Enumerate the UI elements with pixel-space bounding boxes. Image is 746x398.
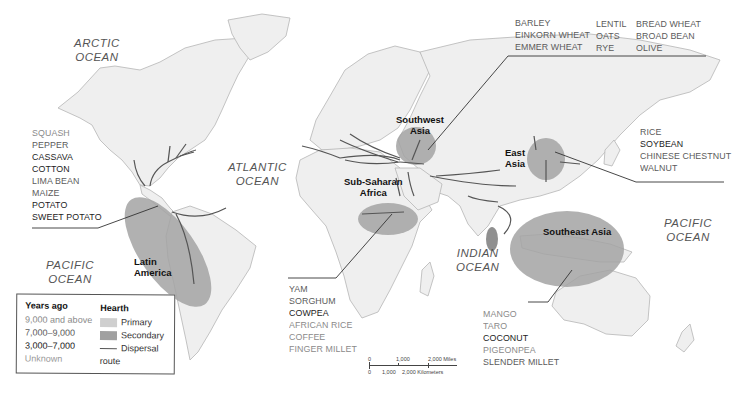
crop-name: WALNUT	[640, 162, 731, 174]
hearth-label-southwest-asia: Southwest Asia	[396, 114, 444, 136]
dispersal-route-line-icon	[100, 348, 117, 349]
ocean-label-line: OCEAN	[456, 260, 499, 274]
crop-name: CHINESE CHESTNUT	[640, 150, 731, 162]
crop-name: COWPEA	[289, 307, 357, 319]
crop-name: EMMER WHEAT	[515, 41, 590, 53]
crop-name: BROAD BEAN	[636, 30, 701, 42]
crop-name: LIMA BEAN	[32, 175, 102, 187]
hearth-label-latin-america: Latin America	[134, 256, 172, 278]
crop-name: TARO	[483, 320, 559, 332]
crop-name: OLIVE	[636, 42, 701, 54]
crop-name: SOYBEAN	[640, 138, 731, 150]
crop-name: SLENDER MILLET	[483, 356, 559, 368]
crop-name: COTTON	[32, 163, 102, 175]
crop-name: MAIZE	[32, 187, 102, 199]
ocean-label-line: OCEAN	[228, 174, 287, 188]
legend-hearth-title: Hearth	[100, 303, 174, 314]
crop-name: RICE	[640, 126, 731, 138]
scale-tick	[369, 362, 370, 369]
crop-list-east-asia: RICE SOYBEAN CHINESE CHESTNUT WALNUT	[640, 126, 731, 174]
hearth-label-line: Asia	[396, 125, 444, 136]
crop-name: OATS	[596, 30, 626, 42]
crop-list-southwest-asia-col3: BREAD WHEAT BROAD BEAN OLIVE	[636, 18, 701, 54]
crop-list-southeast-asia: MANGO TARO COCONUT PIGEONPEA SLENDER MIL…	[483, 308, 559, 368]
ocean-label-atlantic: ATLANTIC OCEAN	[228, 160, 287, 188]
hearth-label-line: America	[134, 267, 172, 278]
crop-name: YAM	[289, 283, 357, 295]
hearth-label-sub-saharan-africa: Sub-Saharan Africa	[344, 176, 403, 198]
crop-name: SORGHUM	[289, 295, 357, 307]
crop-name: SWEET POTATO	[32, 211, 102, 223]
crop-name: FINGER MILLET	[289, 343, 357, 355]
legend-years-title: Years ago	[25, 301, 92, 311]
new-zealand	[676, 324, 694, 352]
legend-years-column: Years ago 9,000 and above 7,000–9,000 3,…	[25, 301, 93, 366]
crop-name: EINKORN WHEAT	[515, 29, 590, 41]
hearth-label-east-asia: East Asia	[505, 147, 525, 169]
ocean-label-indian: INDIAN OCEAN	[456, 246, 499, 274]
crop-name: AFRICAN RICE	[289, 319, 357, 331]
primary-swatch-icon	[100, 318, 117, 327]
hearth-label-line: Southwest	[396, 114, 444, 125]
crop-name: COFFEE	[289, 331, 357, 343]
ocean-label-line: INDIAN	[456, 246, 499, 260]
ocean-label-line: ARCTIC	[74, 36, 120, 50]
crop-list-southwest-asia-col2: LENTIL OATS RYE	[596, 18, 626, 54]
hearth-label-line: Latin	[134, 256, 172, 267]
crop-name: BARLEY	[515, 17, 590, 29]
crop-list-sub-saharan-africa: YAM SORGHUM COWPEA AFRICAN RICE COFFEE F…	[289, 283, 357, 355]
crop-name: MANGO	[483, 308, 559, 320]
legend-years-item: Unknown	[25, 353, 92, 366]
legend-hearth-secondary: Secondary	[100, 329, 174, 343]
madagascar	[420, 262, 434, 296]
scale-km-label: 2,000 Kilometers	[402, 369, 443, 375]
crop-name: COCONUT	[483, 332, 559, 344]
legend-years-item: 9,000 and above	[25, 314, 92, 327]
hearth-label-line: Africa	[344, 187, 403, 198]
ocean-label-line: OCEAN	[46, 272, 94, 286]
scale-bar: 0 1,000 2,000 Miles 0 1,000 2,000 Kilome…	[368, 356, 478, 380]
crop-name: CASSAVA	[32, 151, 102, 163]
ocean-label-line: PACIFIC	[46, 258, 94, 272]
legend-years-item: 7,000–9,000	[25, 327, 92, 340]
hearth-label-line: Southeast Asia	[543, 226, 611, 237]
crop-name: SQUASH	[32, 127, 102, 139]
map-legend: Years ago 9,000 and above 7,000–9,000 3,…	[16, 293, 176, 374]
crop-list-southwest-asia-col1: BARLEY EINKORN WHEAT EMMER WHEAT	[515, 17, 590, 53]
legend-hearth-route: Dispersal route	[100, 342, 174, 356]
ocean-label-line: PACIFIC	[664, 216, 712, 230]
scale-tick	[428, 363, 429, 368]
crop-name: PEPPER	[32, 139, 102, 151]
ocean-label-pacific-east: PACIFIC OCEAN	[664, 216, 712, 244]
crop-list-latin-america: SQUASH PEPPER CASSAVA COTTON LIMA BEAN M…	[32, 127, 102, 223]
hearth-label-line: East	[505, 147, 525, 158]
legend-hearth-label: Secondary	[121, 330, 164, 340]
legend-hearth-label: Dispersal route	[100, 343, 159, 366]
hearth-label-line: Asia	[505, 158, 525, 169]
hearth-label-line: Sub-Saharan	[344, 176, 403, 187]
legend-years-item: 3,000–7,000	[25, 340, 92, 353]
ocean-label-pacific-west: PACIFIC OCEAN	[46, 258, 94, 286]
legend-hearth-label: Primary	[121, 317, 152, 327]
ocean-label-line: OCEAN	[664, 230, 712, 244]
ocean-label-line: OCEAN	[74, 50, 120, 64]
scale-km-label: 0	[368, 369, 371, 375]
scale-line	[369, 365, 457, 366]
crop-name: BREAD WHEAT	[636, 18, 701, 30]
hearth-southeast-asia	[510, 211, 624, 287]
legend-hearth-column: Hearth Primary Secondary Dispersal route	[100, 303, 174, 356]
scale-miles-label: 2,000 Miles	[428, 356, 456, 362]
crop-name: PIGEONPEA	[483, 344, 559, 356]
secondary-swatch-icon	[100, 331, 117, 340]
scale-miles-label: 1,000	[396, 356, 410, 362]
crop-name: POTATO	[32, 199, 102, 211]
ocean-label-line: ATLANTIC	[228, 160, 287, 174]
crop-name: LENTIL	[596, 18, 626, 30]
legend-hearth-primary: Primary	[100, 316, 174, 330]
scale-tick	[398, 363, 399, 366]
crop-name: RYE	[596, 42, 626, 54]
ocean-label-arctic: ARCTIC OCEAN	[74, 36, 120, 64]
hearth-label-southeast-asia: Southeast Asia	[543, 226, 611, 237]
scale-km-label: 1,000	[382, 369, 396, 375]
